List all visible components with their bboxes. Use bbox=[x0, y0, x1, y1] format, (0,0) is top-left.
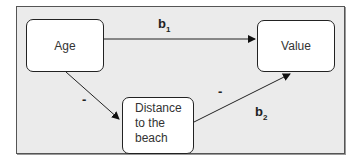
edge-distance-value bbox=[194, 74, 290, 122]
edge-label-minus-left: - bbox=[82, 92, 86, 107]
node-age: Age bbox=[26, 19, 104, 72]
node-age-label: Age bbox=[54, 39, 75, 53]
node-distance-line-3: beach bbox=[135, 131, 193, 146]
node-value-label: Value bbox=[281, 39, 311, 53]
edge-label-b1: b1 bbox=[158, 16, 170, 34]
node-distance-line-1: Distance bbox=[135, 101, 193, 116]
edge-label-minus-right: - bbox=[218, 84, 222, 99]
edge-label-b2: b2 bbox=[255, 104, 267, 122]
edge-age-distance bbox=[66, 72, 119, 119]
node-distance-to-beach: Distance to the beach bbox=[122, 97, 194, 154]
node-distance-line-2: to the bbox=[135, 116, 193, 131]
node-value: Value bbox=[257, 20, 335, 72]
